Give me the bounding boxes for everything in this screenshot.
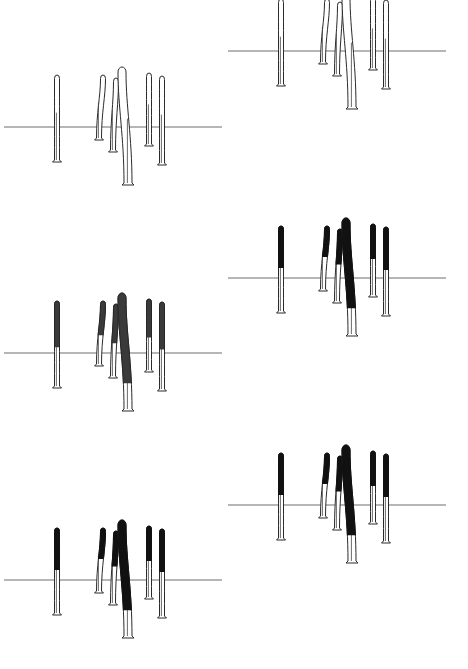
cell-shape-2	[319, 0, 330, 64]
cell-shape-4	[342, 445, 358, 563]
cell-shape-3	[109, 304, 119, 378]
cell-shape-5	[369, 224, 378, 297]
panel-A	[4, 67, 222, 185]
cell-shape-2	[95, 75, 106, 140]
cell-shape-2	[319, 453, 330, 518]
cell-shape-3	[109, 78, 119, 152]
figure-canvas	[0, 0, 468, 669]
cell-shape-6	[382, 227, 391, 316]
cell-shape-2	[95, 301, 106, 366]
cell-shape-6	[382, 454, 391, 543]
cell-shape-3	[109, 531, 119, 605]
cell-shape-3	[333, 456, 343, 530]
cell-shape-4	[118, 520, 134, 638]
panel-C	[4, 293, 222, 411]
panel-B	[228, 0, 446, 109]
cell-shape-1	[277, 0, 286, 86]
cell-shape-3	[333, 229, 343, 303]
cell-shape-6	[158, 302, 167, 391]
cell-shape-1	[277, 453, 286, 540]
cell-shape-5	[369, 451, 378, 524]
cell-shape-5	[369, 0, 378, 70]
cell-shape-4	[342, 218, 358, 336]
cell-shape-5	[145, 73, 154, 146]
cell-shape-2	[95, 528, 106, 593]
cell-shape-1	[53, 528, 62, 615]
cell-shape-4	[118, 67, 134, 185]
panel-E	[4, 520, 222, 638]
cell-shape-3	[333, 2, 343, 76]
cell-shape-4	[342, 0, 358, 109]
cell-shape-4	[118, 293, 134, 411]
cell-shape-1	[277, 226, 286, 313]
cell-shape-6	[158, 529, 167, 618]
cell-shape-1	[53, 301, 62, 388]
cell-shape-6	[158, 76, 167, 165]
cell-shape-5	[145, 299, 154, 372]
panel-F	[228, 445, 446, 563]
cell-shape-5	[145, 526, 154, 599]
cell-shape-1	[53, 75, 62, 162]
cell-shape-6	[382, 0, 391, 89]
cell-shape-2	[319, 226, 330, 291]
panel-D	[228, 218, 446, 336]
